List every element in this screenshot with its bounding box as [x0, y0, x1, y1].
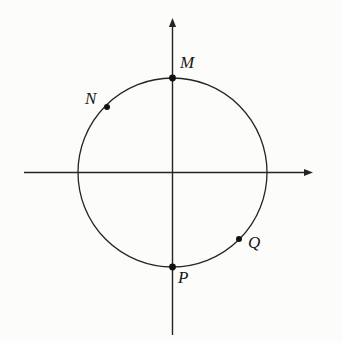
point-label-m: M [180, 54, 194, 71]
point-label-q: Q [248, 234, 260, 251]
y-axis-arrowhead [169, 18, 176, 27]
x-axis-arrowhead [304, 169, 313, 176]
point-dot-p [169, 264, 176, 271]
axes-group [24, 18, 313, 335]
point-label-n: N [85, 90, 96, 107]
figure-canvas: MNPQ [0, 0, 343, 343]
unit-circle-figure [0, 0, 343, 343]
point-dot-n [104, 104, 110, 110]
point-label-p: P [178, 269, 188, 286]
point-dot-q [236, 236, 242, 242]
point-dot-m [169, 75, 176, 82]
